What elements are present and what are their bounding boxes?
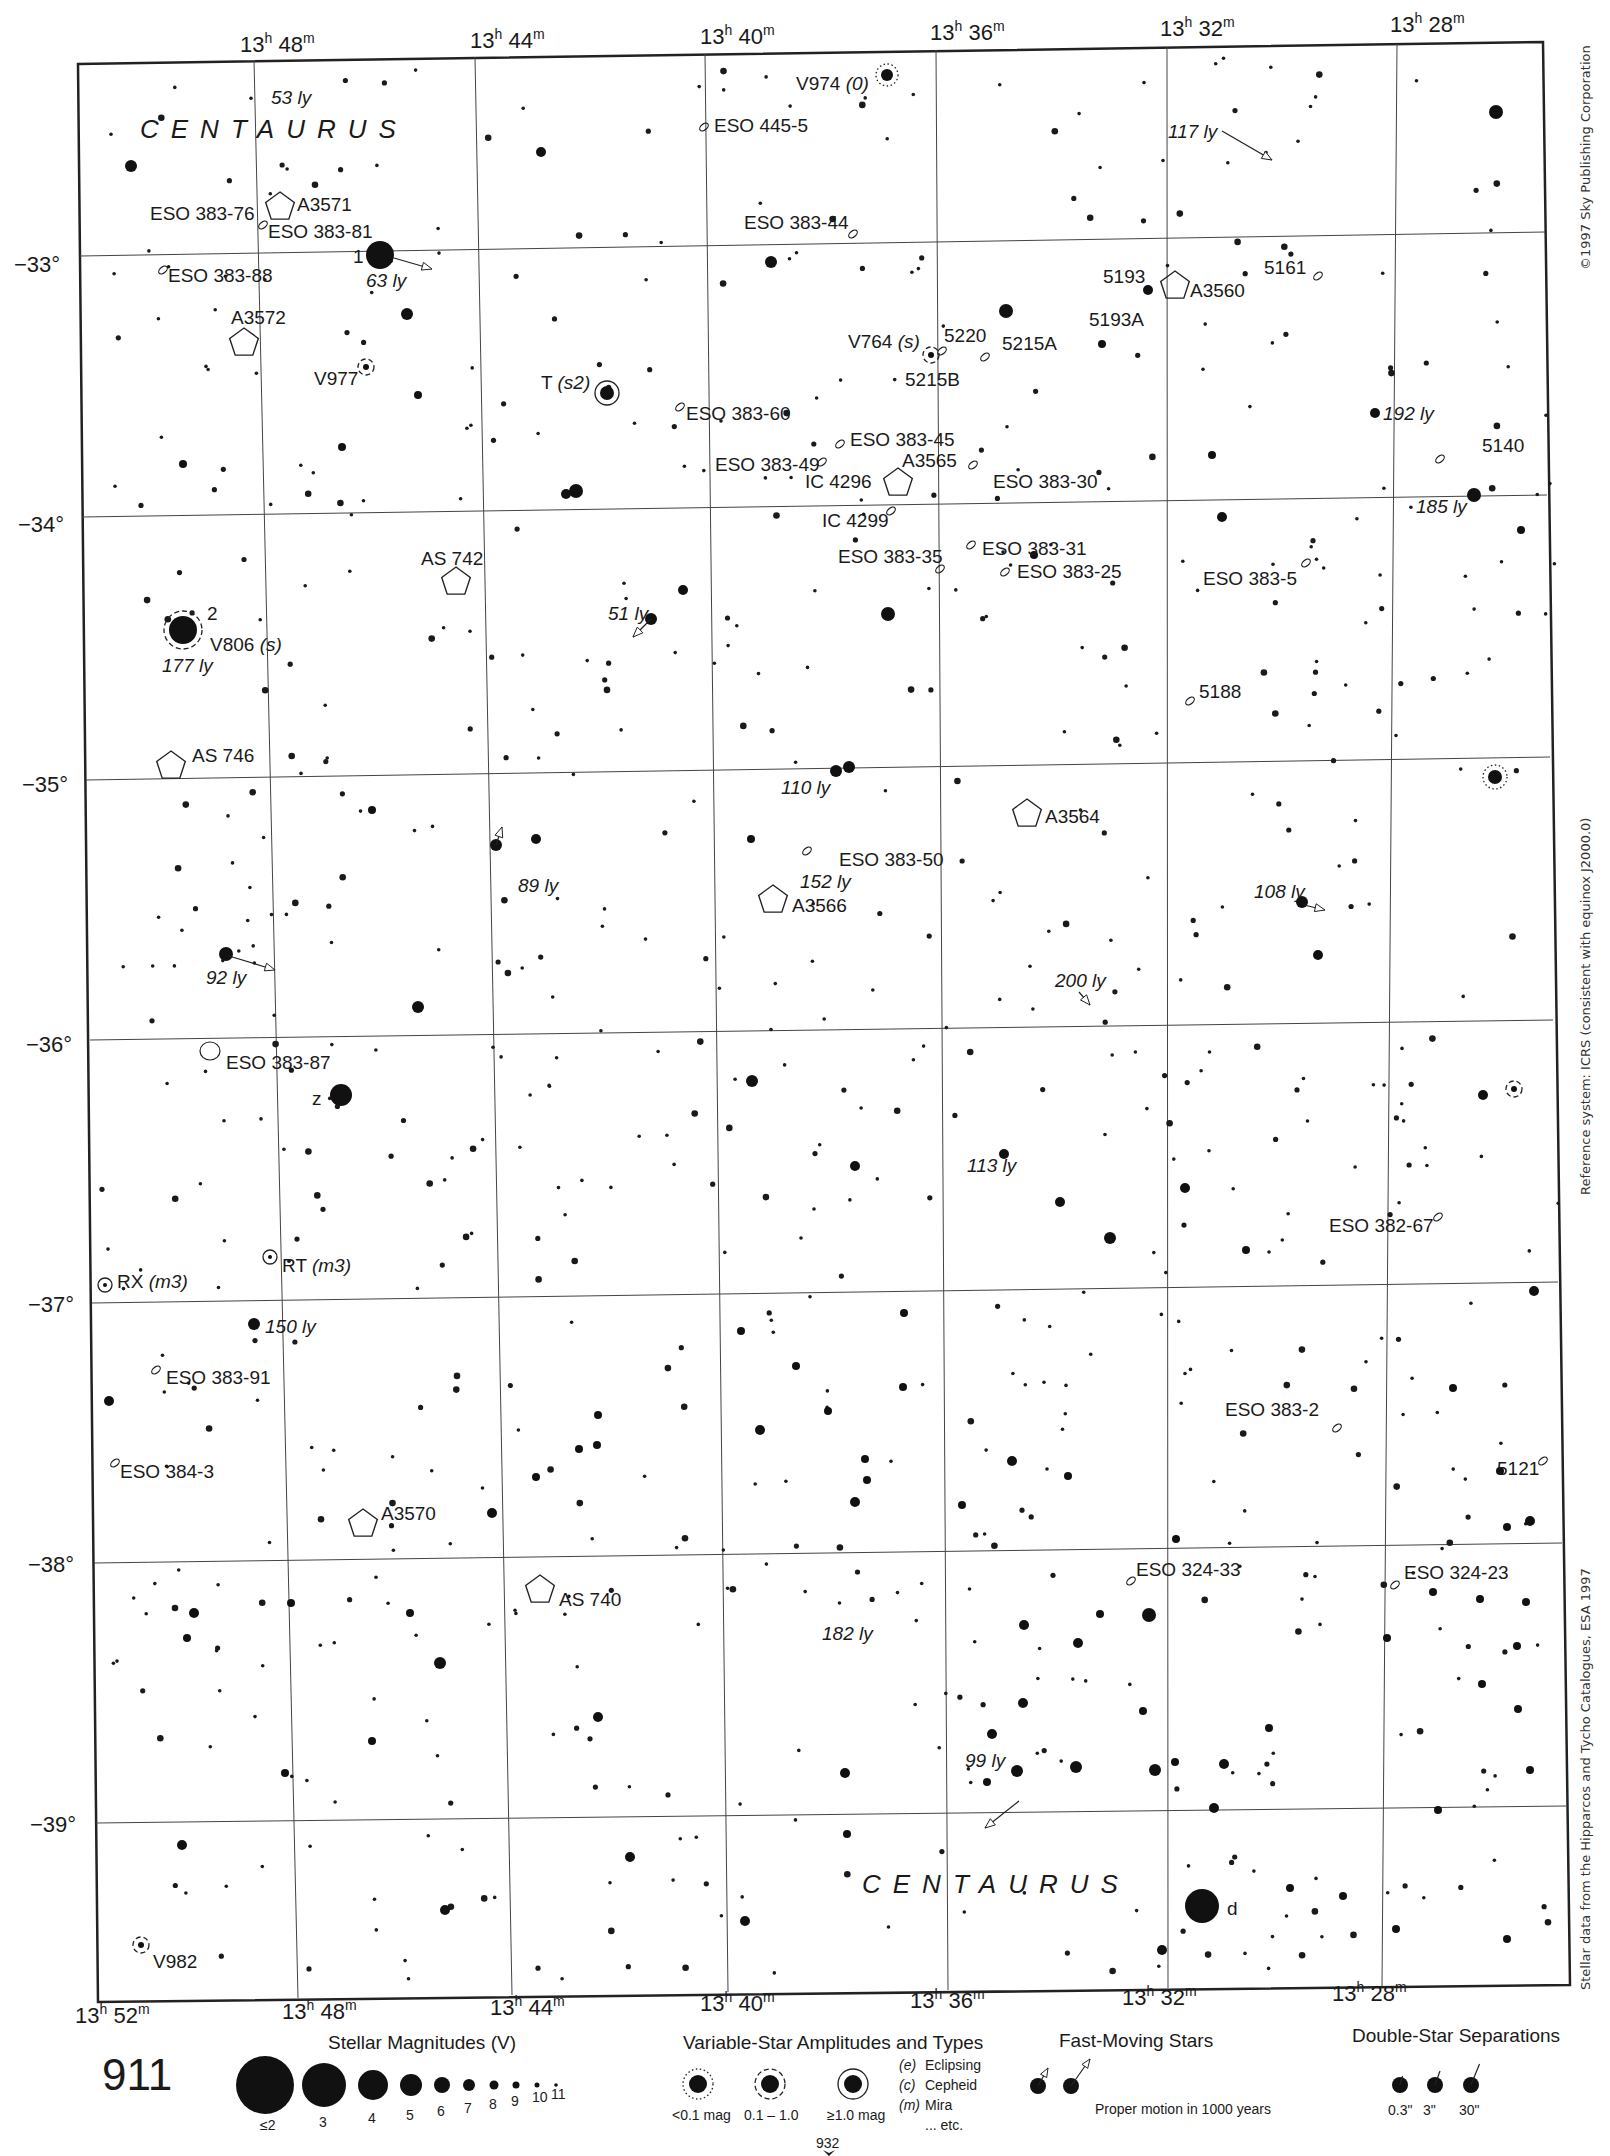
object-label: A3571 xyxy=(297,194,352,215)
faint-star xyxy=(1128,1683,1132,1687)
faint-star xyxy=(1222,57,1226,61)
variable-dot-icon xyxy=(761,2075,779,2093)
faint-star xyxy=(555,731,560,736)
faint-star xyxy=(428,635,435,642)
faint-star xyxy=(348,569,352,573)
faint-star xyxy=(1183,1372,1187,1376)
faint-star xyxy=(449,1542,453,1546)
faint-star xyxy=(1312,1908,1319,1915)
faint-star xyxy=(493,1896,497,1900)
faint-star xyxy=(1474,188,1479,193)
faint-star xyxy=(1177,210,1184,217)
faint-star xyxy=(1344,683,1348,687)
faint-star xyxy=(733,1077,737,1081)
faint-star xyxy=(338,167,343,172)
faint-star xyxy=(1134,1050,1138,1054)
faint-star xyxy=(1381,272,1385,276)
faint-star xyxy=(1351,1385,1358,1392)
star xyxy=(532,1473,540,1481)
faint-star xyxy=(1087,215,1094,222)
object-label: 5215B xyxy=(905,369,960,390)
legend-variables-title: Variable-Star Amplitudes and Types xyxy=(683,2032,983,2053)
arrowhead-icon xyxy=(1261,152,1272,160)
faint-star xyxy=(521,107,525,111)
faint-star xyxy=(1447,1539,1454,1546)
faint-star xyxy=(177,1568,181,1572)
faint-star xyxy=(922,1044,926,1048)
object-label: T (s2) xyxy=(541,372,590,393)
object-label: ESO 383-60 xyxy=(686,403,791,424)
faint-star xyxy=(556,897,560,901)
galaxy-cluster-icon xyxy=(526,1575,555,1602)
faint-star xyxy=(1047,930,1051,934)
object-label: V764 (s) xyxy=(848,331,920,352)
named-star-label: 2 xyxy=(207,603,218,624)
faint-star xyxy=(1071,196,1076,201)
map-border xyxy=(78,42,1570,2002)
object-label: 5193A xyxy=(1089,309,1144,330)
faint-star xyxy=(225,1884,229,1888)
variable-dot-icon xyxy=(844,2075,862,2093)
faint-star xyxy=(99,1187,104,1192)
faint-star xyxy=(262,836,266,840)
faint-star xyxy=(1135,353,1140,358)
faint-star xyxy=(1417,1728,1424,1735)
faint-star xyxy=(1098,166,1102,170)
faint-star xyxy=(303,584,307,588)
faint-star xyxy=(808,1295,812,1299)
faint-star xyxy=(1464,1477,1468,1481)
faint-star xyxy=(1121,645,1128,652)
faint-star xyxy=(557,1186,561,1190)
object-label: ESO 383-87 xyxy=(226,1052,331,1073)
faint-star xyxy=(252,1338,257,1343)
star xyxy=(368,1737,376,1745)
object-label: IC 4296 xyxy=(805,471,872,492)
faint-star xyxy=(979,448,984,453)
ra-label: 13h 32m xyxy=(1122,1983,1197,2010)
faint-star xyxy=(172,1196,179,1203)
star xyxy=(1265,1724,1273,1732)
dec-grid-line xyxy=(96,1806,1566,1823)
faint-star xyxy=(209,1745,213,1749)
object-label: V982 xyxy=(153,1951,197,1972)
faint-star xyxy=(259,1600,266,1607)
faint-star xyxy=(1429,1035,1436,1042)
faint-star xyxy=(262,687,269,694)
star xyxy=(1383,1634,1391,1642)
faint-star xyxy=(308,1845,312,1849)
faint-star xyxy=(469,423,473,427)
magnitude-dot-icon xyxy=(358,2070,388,2100)
faint-star xyxy=(1179,1402,1183,1406)
faint-star xyxy=(575,1665,579,1669)
faint-star xyxy=(637,1134,641,1138)
galaxy-icon xyxy=(1389,1579,1401,1590)
distance-label: 192 ly xyxy=(1383,403,1435,424)
faint-star xyxy=(1388,365,1393,370)
faint-star xyxy=(1438,1627,1442,1631)
faint-star xyxy=(280,162,285,167)
faint-star xyxy=(226,814,230,818)
faint-star xyxy=(662,830,667,835)
faint-star xyxy=(403,1959,407,1963)
faint-star xyxy=(255,371,259,375)
magnitude-dot-icon xyxy=(463,2079,475,2091)
faint-star xyxy=(912,1058,916,1062)
faint-star xyxy=(161,1353,165,1357)
faint-star xyxy=(784,1479,788,1483)
faint-star xyxy=(753,1482,757,1486)
faint-star xyxy=(1473,1804,1477,1808)
faint-star xyxy=(1502,1382,1507,1387)
faint-star xyxy=(1272,710,1279,717)
star-atlas-chart: 12zdESO 445-5ESO 383-76A3571ESO 383-81ES… xyxy=(0,0,1610,2156)
faint-star xyxy=(563,1213,567,1217)
faint-star xyxy=(624,597,628,601)
variable-label: V974 (0) xyxy=(796,73,869,94)
faint-star xyxy=(1536,493,1540,497)
faint-star xyxy=(481,1895,488,1902)
faint-star xyxy=(738,1802,742,1806)
faint-star xyxy=(656,1050,660,1054)
faint-star xyxy=(1118,744,1122,748)
variable-star xyxy=(268,1255,272,1259)
faint-star xyxy=(113,485,117,489)
galaxy-icon xyxy=(1300,557,1312,568)
